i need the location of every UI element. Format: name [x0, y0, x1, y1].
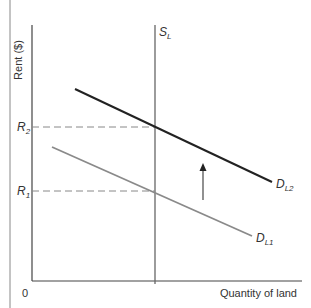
- origin-label: 0: [22, 287, 28, 299]
- r2-tick-label: R2: [17, 120, 31, 136]
- rent-chart: Rent ($) Quantity of land 0 SL DL2 DL1 R…: [0, 0, 311, 308]
- arrow-head-icon: [200, 163, 207, 171]
- dl1-label: DL1: [256, 231, 274, 247]
- sl-label: SL: [159, 25, 171, 41]
- y-axis-label: Rent ($): [12, 40, 24, 80]
- demand-curve-dl2: [75, 89, 272, 182]
- dl2-label: DL2: [276, 177, 294, 193]
- x-axis-label: Quantity of land: [220, 287, 297, 299]
- r1-tick-label: R1: [17, 184, 30, 200]
